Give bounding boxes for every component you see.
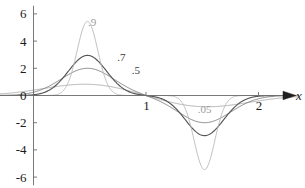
x-axis-arrowhead	[283, 91, 296, 100]
curve-annotation-0-7: .7	[117, 51, 126, 63]
y-tick-label: -6	[16, 170, 27, 185]
curve-annotation-0-05: .05	[198, 103, 212, 115]
axes-group	[0, 6, 296, 186]
coordinate-plot: 6420-2-4-612x.9.7.5.05	[0, 0, 305, 188]
y-tick-label: -4	[16, 142, 27, 157]
y-tick-label: 6	[20, 6, 27, 21]
x-tick-label: 2	[256, 98, 263, 113]
plot-figure: 6420-2-4-612x.9.7.5.05	[0, 0, 305, 188]
y-tick-label: 0	[20, 88, 27, 103]
curve-annotation-0-5: .5	[132, 64, 141, 76]
curve-annotation-0-9: .9	[88, 16, 97, 28]
y-tick-label: 4	[20, 34, 27, 49]
y-tick-label: -2	[16, 115, 27, 130]
x-axis-label: x	[295, 88, 302, 103]
y-tick-label: 2	[20, 61, 27, 76]
x-tick-label: 1	[143, 98, 150, 113]
